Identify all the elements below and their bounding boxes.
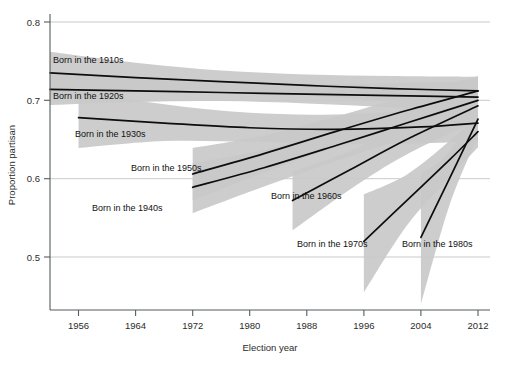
y-tick-label-0.5: 0.5 <box>27 252 40 263</box>
series-label-6: Born in the 1970s <box>297 239 368 249</box>
x-tick-label-1988: 1988 <box>296 320 317 331</box>
x-tick-label-1972: 1972 <box>182 320 203 331</box>
series-label-1: Born in the 1920s <box>53 91 124 101</box>
series-label-0: Born in the 1910s <box>53 55 124 65</box>
x-tick-label-1964: 1964 <box>125 320 146 331</box>
series-label-3: Born in the 1950s <box>131 163 202 173</box>
x-tick-label-1956: 1956 <box>68 320 89 331</box>
series-label-7: Born in the 1980s <box>402 239 473 249</box>
x-axis-ticks: 19561964197219801988199620042012 <box>68 310 489 331</box>
x-tick-label-2004: 2004 <box>410 320 431 331</box>
x-tick-label-1996: 1996 <box>353 320 374 331</box>
y-tick-label-0.8: 0.8 <box>27 17 40 28</box>
x-tick-label-1980: 1980 <box>239 320 260 331</box>
partisan-cohort-line-chart: 19561964197219801988199620042012 0.50.60… <box>0 0 506 369</box>
series-label-2: Born in the 1930s <box>75 129 146 139</box>
series-label-5: Born in the 1960s <box>271 191 342 201</box>
y-tick-label-0.7: 0.7 <box>27 95 40 106</box>
y-axis-ticks: 0.50.60.70.8 <box>27 17 50 263</box>
chart-figure: 19561964197219801988199620042012 0.50.60… <box>0 0 506 369</box>
y-tick-label-0.6: 0.6 <box>27 173 40 184</box>
y-axis-label: Proportion partisan <box>6 125 17 205</box>
x-tick-label-2012: 2012 <box>467 320 488 331</box>
series-label-4: Born in the 1940s <box>92 203 163 213</box>
x-axis-label: Election year <box>243 342 298 353</box>
